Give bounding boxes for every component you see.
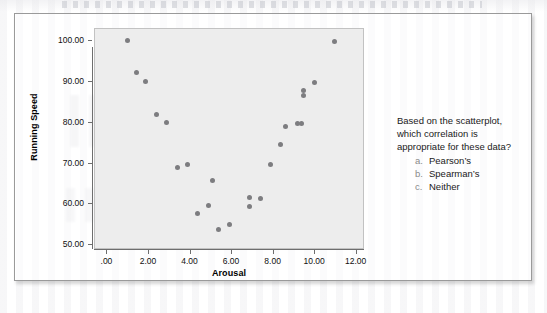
question-line-2: which correlation is (397, 127, 537, 140)
scatter-point (299, 121, 304, 126)
x-tick-mark (148, 250, 149, 254)
x-tick-mark (106, 250, 107, 254)
answer-choice[interactable]: b.Spearman’s (415, 167, 537, 180)
y-tick-mark (88, 81, 92, 82)
page-bleed-top-line (62, 1, 482, 8)
y-tick-label: 100.00 (31, 35, 84, 45)
x-tick-label: 10.00 (291, 256, 337, 266)
answer-choice[interactable]: c.Neither (415, 180, 537, 193)
y-tick-mark (88, 40, 92, 41)
answer-choice-text: Pearson’s (429, 154, 471, 167)
x-tick-label: 4.00 (167, 256, 213, 266)
x-tick-label: 6.00 (208, 256, 254, 266)
y-tick-mark (88, 244, 92, 245)
question-line-1: Based on the scatterplot, (397, 114, 537, 127)
answer-choice-letter: b. (415, 167, 424, 180)
scatter-point (125, 38, 130, 43)
y-tick-mark (88, 203, 92, 204)
x-tick-label: 8.00 (250, 256, 296, 266)
question-line-3: appropriate for these data? (397, 140, 537, 153)
y-axis-line (92, 47, 93, 249)
x-tick-mark (356, 250, 357, 254)
scatter-point (258, 196, 263, 201)
plot-area (94, 28, 364, 249)
answer-choice-text: Spearman’s (429, 167, 480, 180)
answer-choices: a.Pearson’sb.Spearman’sc.Neither (397, 154, 537, 194)
scatter-point (247, 204, 252, 209)
scatter-point (175, 165, 180, 170)
x-axis-title: Arousal (94, 268, 364, 278)
y-tick-mark (88, 122, 92, 123)
question-block: Based on the scatterplot, which correlat… (397, 114, 537, 193)
figure-box: 50.0060.0070.0080.0090.00100.00 .002.004… (14, 13, 532, 281)
scatter-point (206, 203, 211, 208)
answer-choice-letter: c. (415, 180, 424, 193)
scatter-point (154, 112, 159, 117)
x-tick-label: 12.00 (333, 256, 379, 266)
x-tick-mark (314, 250, 315, 254)
answer-choice[interactable]: a.Pearson’s (415, 154, 537, 167)
scatter-point (210, 178, 215, 183)
scatter-point (195, 211, 200, 216)
scatterplot-chart: 50.0060.0070.0080.0090.00100.00 .002.004… (15, 14, 395, 282)
x-tick-mark (231, 250, 232, 254)
answer-choice-text: Neither (429, 180, 460, 193)
answer-choice-letter: a. (415, 154, 424, 167)
scatter-point (312, 80, 317, 85)
y-tick-mark (88, 163, 92, 164)
x-tick-mark (273, 250, 274, 254)
scatter-point (185, 162, 190, 167)
x-tick-label: .00 (83, 256, 129, 266)
x-axis-line (94, 249, 364, 250)
x-tick-mark (190, 250, 191, 254)
y-axis-title: Running Speed (29, 77, 39, 177)
y-tick-label: 50.00 (31, 239, 84, 249)
y-tick-label: 60.00 (31, 198, 84, 208)
x-tick-label: 2.00 (125, 256, 171, 266)
scatter-point (283, 124, 288, 129)
